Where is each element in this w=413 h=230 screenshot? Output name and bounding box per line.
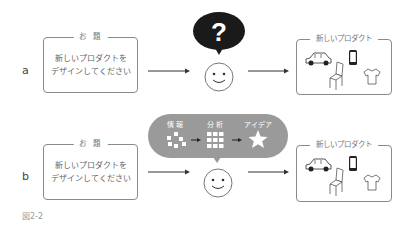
chair-icon (330, 168, 343, 196)
figure-caption: 図2-2 (22, 210, 43, 221)
tshirt-icon (364, 175, 380, 190)
car-icon (306, 159, 331, 172)
smartphone-icon (349, 156, 357, 171)
products-b (0, 0, 413, 230)
